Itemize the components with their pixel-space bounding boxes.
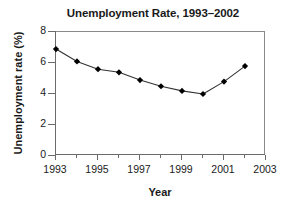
data-point-1997 xyxy=(137,77,143,83)
y-tick-label-4: 4 xyxy=(24,87,46,98)
y-tick-label-8: 8 xyxy=(24,25,46,36)
data-series-unemployment-rate xyxy=(56,32,266,156)
y-tick-label-2: 2 xyxy=(24,118,46,129)
x-tick-label-1993: 1993 xyxy=(35,163,75,175)
chart-title: Unemployment Rate, 1993–2002 xyxy=(0,6,306,20)
data-point-2000 xyxy=(200,91,206,97)
x-tick-label-1999: 1999 xyxy=(161,163,201,175)
x-tick-1995 xyxy=(97,155,98,160)
line-path xyxy=(56,49,245,94)
x-tick-label-1995: 1995 xyxy=(77,163,117,175)
y-tick-6 xyxy=(48,62,55,63)
data-point-1995 xyxy=(95,66,101,72)
y-tick-8 xyxy=(48,31,55,32)
x-axis-title: Year xyxy=(55,186,265,198)
x-tick-minor-1994 xyxy=(76,155,77,158)
chart-figure: Unemployment Rate, 1993–2002 Unemploymen… xyxy=(0,0,306,215)
x-tick-2001 xyxy=(223,155,224,160)
data-point-1996 xyxy=(116,69,122,75)
x-tick-1999 xyxy=(181,155,182,160)
y-axis-title: Unemployment rate (%) xyxy=(12,32,24,155)
y-tick-label-0: 0 xyxy=(24,149,46,160)
x-tick-label-2003: 2003 xyxy=(245,163,285,175)
x-tick-1993 xyxy=(55,155,56,160)
y-tick-label-6: 6 xyxy=(24,56,46,67)
x-tick-2003 xyxy=(265,155,266,160)
x-tick-1997 xyxy=(139,155,140,160)
x-tick-label-2001: 2001 xyxy=(203,163,243,175)
data-point-markers xyxy=(53,46,248,97)
x-tick-label-1997: 1997 xyxy=(119,163,159,175)
y-tick-0 xyxy=(48,155,55,156)
x-tick-minor-1998 xyxy=(160,155,161,158)
x-tick-minor-2002 xyxy=(244,155,245,158)
plot-area xyxy=(55,31,265,155)
data-point-1993 xyxy=(53,46,59,52)
data-point-1994 xyxy=(74,58,80,64)
data-point-1999 xyxy=(179,88,185,94)
data-point-1998 xyxy=(158,83,164,89)
y-tick-4 xyxy=(48,93,55,94)
y-tick-2 xyxy=(48,124,55,125)
x-tick-minor-2000 xyxy=(202,155,203,158)
x-tick-minor-1996 xyxy=(118,155,119,158)
